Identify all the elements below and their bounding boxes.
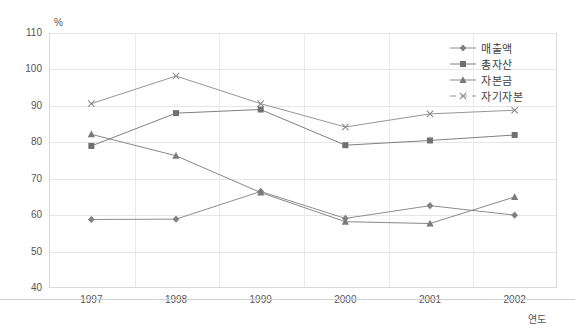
legend-item-4[interactable]: 자기자본 — [449, 88, 561, 104]
diamond-marker-icon — [449, 42, 477, 54]
gridline — [50, 215, 556, 216]
legend-label: 총자산 — [481, 56, 513, 72]
x-gridline — [135, 34, 136, 287]
y-axis-tick: 60 — [16, 210, 42, 220]
y-axis-tick: 40 — [16, 283, 42, 293]
legend-item-2[interactable]: 총자산 — [449, 56, 561, 72]
y-axis-unit-label: % — [54, 17, 63, 28]
y-axis-tick: 90 — [16, 101, 42, 111]
y-axis-tick: 80 — [16, 137, 42, 147]
chart-container: % 405060708090100110 1997199819992000200… — [0, 0, 575, 336]
gridline — [50, 106, 556, 107]
y-axis-tick: 70 — [16, 174, 42, 184]
legend-label: 자본금 — [481, 72, 513, 88]
gridline — [50, 142, 556, 143]
cross-marker-icon — [449, 90, 477, 102]
y-axis-tick: 100 — [16, 64, 42, 74]
gridline — [50, 179, 556, 180]
gridline — [50, 33, 556, 34]
chart-legend: 매출액총자산자본금자기자본 — [449, 40, 561, 104]
square-marker-icon — [449, 58, 477, 70]
x-gridline — [304, 34, 305, 287]
y-axis-tick: 50 — [16, 247, 42, 257]
legend-item-1[interactable]: 매출액 — [449, 40, 561, 56]
axis-bottom-rule — [0, 299, 575, 300]
legend-item-3[interactable]: 자본금 — [449, 72, 561, 88]
gridline — [50, 252, 556, 253]
triangle-marker-icon — [449, 74, 477, 86]
y-axis-tick: 110 — [16, 28, 42, 38]
x-axis-title: 연도 — [528, 311, 546, 326]
x-gridline — [219, 34, 220, 287]
x-gridline — [389, 34, 390, 287]
legend-label: 매출액 — [481, 40, 513, 56]
legend-label: 자기자본 — [481, 88, 523, 104]
